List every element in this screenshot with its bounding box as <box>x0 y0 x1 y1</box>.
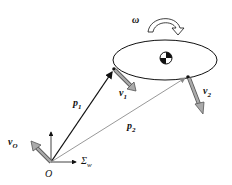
v1-label: v1 <box>119 87 127 101</box>
center-of-mass-icon <box>160 52 172 64</box>
origin-label: O <box>45 168 52 179</box>
vO-label: vO <box>8 136 18 150</box>
angular-velocity-arrow-icon <box>148 19 184 35</box>
position-vector-p1 <box>51 72 112 162</box>
rigid-body-kinematics-diagram: ω p1 p2 v1 v2 vO O Σw <box>0 0 232 185</box>
diagram-canvas <box>0 0 232 185</box>
velocity-vO-arrow <box>31 141 51 162</box>
omega-label: ω <box>132 14 139 25</box>
p1-label: p1 <box>73 97 82 111</box>
frame-label: Σw <box>81 155 92 169</box>
position-vector-p2 <box>51 78 185 162</box>
velocity-v2-arrow <box>189 78 204 114</box>
v2-label: v2 <box>203 85 211 99</box>
p2-label: p2 <box>127 120 136 134</box>
